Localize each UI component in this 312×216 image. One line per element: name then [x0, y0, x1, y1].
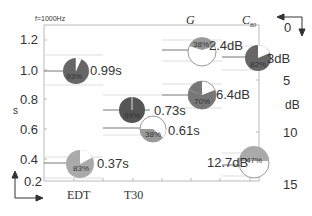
right-tick-10: 10 [283, 125, 297, 140]
right-tick-15: 15 [283, 177, 297, 192]
c80-subscript: 80 [250, 22, 256, 28]
pct-t30-1: 99% [124, 111, 140, 120]
value-g-1: 2.4dB [209, 38, 243, 53]
pct-t30-2: 38% [145, 130, 161, 139]
left-tick-1.2: 1.2 [20, 32, 38, 47]
left-tick-0.8: 0.8 [20, 92, 38, 107]
top-label-g: G [186, 13, 195, 28]
value-t30-2: 0.61s [168, 123, 200, 138]
right-tick-0: 0 [284, 20, 291, 35]
top-label-c80: C80 [242, 13, 256, 28]
value-c80-1: 3dB [267, 51, 290, 66]
frequency-label: f=1000Hz [35, 15, 65, 22]
right-axis-unit: dB [285, 98, 300, 112]
pct-c80-2: 47% [246, 156, 262, 165]
left-tick-1.0: 1.0 [20, 63, 38, 78]
pct-edt-1: 93% [66, 72, 82, 81]
value-t30-1: 0.73s [154, 103, 186, 118]
left-tick-0.2: 0.2 [24, 174, 42, 189]
left-axis-unit: s [13, 105, 18, 116]
left-tick-0.4: 0.4 [20, 152, 38, 167]
x-label-t30: T30 [124, 188, 143, 203]
pct-c80-1: 82% [250, 60, 266, 69]
value-c80-2: 12.7dB [207, 155, 248, 170]
left-tick-0.6: 0.6 [20, 122, 38, 137]
value-edt-1: 0.99s [90, 63, 122, 78]
right-tick-5: 5 [283, 73, 290, 88]
c80-base: C [242, 13, 250, 27]
x-label-edt: EDT [67, 188, 90, 203]
pct-edt-2: 83% [73, 164, 89, 173]
pct-g-2: 70% [194, 97, 210, 106]
value-g-2: 6.4dB [216, 87, 250, 102]
value-edt-2: 0.37s [97, 156, 129, 171]
pct-g-1: 38% [193, 40, 209, 49]
